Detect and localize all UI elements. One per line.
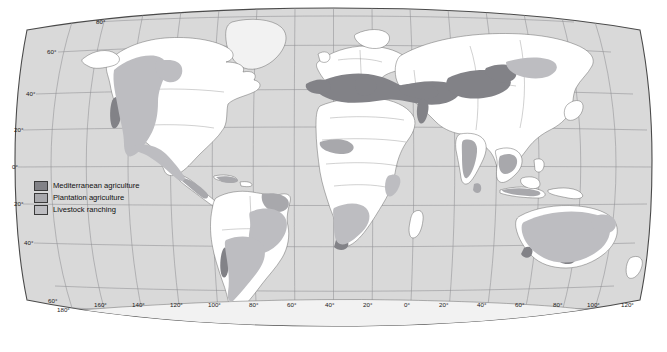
svg-text:140°: 140° <box>132 301 145 308</box>
svg-text:80°: 80° <box>96 18 106 25</box>
world-map-svg: 80° 60° 40° 20° 0° 20° 40° 60° 180° 160°… <box>0 0 667 352</box>
svg-text:20°: 20° <box>14 200 24 207</box>
svg-text:20°: 20° <box>363 301 373 308</box>
legend-label-ranching: Livestock ranching <box>53 205 116 214</box>
svg-text:80°: 80° <box>553 301 563 308</box>
svg-text:20°: 20° <box>14 126 24 133</box>
svg-text:0°: 0° <box>404 301 410 308</box>
svg-text:160°: 160° <box>94 301 107 308</box>
svg-text:60°: 60° <box>287 301 297 308</box>
legend-item-ranching: Livestock ranching <box>34 204 140 215</box>
svg-text:120°: 120° <box>170 301 183 308</box>
svg-text:40°: 40° <box>26 90 36 97</box>
legend-swatch-mediterranean <box>34 181 48 191</box>
legend-swatch-ranching <box>34 205 48 215</box>
land-philippines <box>534 159 544 172</box>
svg-text:80°: 80° <box>249 301 259 308</box>
svg-text:40°: 40° <box>24 239 34 246</box>
legend-label-mediterranean: Mediterranean agriculture <box>53 181 140 190</box>
svg-text:100°: 100° <box>587 301 600 308</box>
svg-text:60°: 60° <box>48 297 58 304</box>
legend-label-plantation: Plantation agriculture <box>53 193 124 202</box>
svg-text:120°: 120° <box>621 301 634 308</box>
map-legend: Mediterranean agriculture Plantation agr… <box>34 180 140 216</box>
svg-text:40°: 40° <box>325 301 335 308</box>
svg-text:0°: 0° <box>12 163 18 170</box>
legend-item-plantation: Plantation agriculture <box>34 192 140 203</box>
legend-swatch-plantation <box>34 193 48 203</box>
svg-text:180°: 180° <box>57 306 70 313</box>
svg-text:60°: 60° <box>47 48 57 55</box>
svg-text:20°: 20° <box>439 301 449 308</box>
svg-text:40°: 40° <box>477 301 487 308</box>
land-hispaniola <box>240 182 252 187</box>
map-figure: 80° 60° 40° 20° 0° 20° 40° 60° 180° 160°… <box>0 0 667 352</box>
land-british-isles <box>318 52 330 63</box>
legend-item-mediterranean: Mediterranean agriculture <box>34 180 140 191</box>
svg-text:100°: 100° <box>208 301 221 308</box>
svg-text:60°: 60° <box>515 301 525 308</box>
